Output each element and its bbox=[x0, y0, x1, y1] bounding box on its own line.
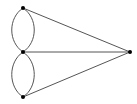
vertex-top bbox=[21, 6, 25, 10]
edge-top-middle-right bbox=[23, 8, 34, 52]
edge-top-middle-left bbox=[12, 8, 23, 52]
edge-bottom-right bbox=[23, 52, 130, 97]
graph-diagram bbox=[0, 0, 137, 104]
vertex-bottom bbox=[21, 95, 25, 99]
edge-top-right bbox=[23, 8, 130, 52]
edge-middle-bottom-right bbox=[23, 52, 34, 97]
vertex-middle bbox=[21, 50, 25, 54]
edge-middle-bottom-left bbox=[12, 52, 23, 97]
vertex-right bbox=[128, 50, 132, 54]
